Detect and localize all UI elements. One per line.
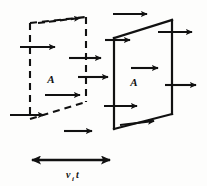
area-label-right: A <box>129 76 137 88</box>
distance-label: v i t <box>66 169 80 183</box>
solid-area-final <box>114 20 172 129</box>
area-label-left: A <box>46 73 54 85</box>
distance-label-subscript: i <box>72 175 74 183</box>
dashed-bottom-edge <box>30 102 86 119</box>
solid-top-edge <box>114 20 172 38</box>
arrow-bottom-solid-face <box>120 121 154 125</box>
flow-arrow-group <box>10 14 196 131</box>
dashed-area-initial <box>30 17 86 119</box>
distance-label-v: v <box>66 169 71 180</box>
flux-diagram-figure: A A v i t <box>0 0 207 186</box>
diagram-canvas: A A v i t <box>0 0 207 186</box>
distance-label-t: t <box>76 169 80 180</box>
